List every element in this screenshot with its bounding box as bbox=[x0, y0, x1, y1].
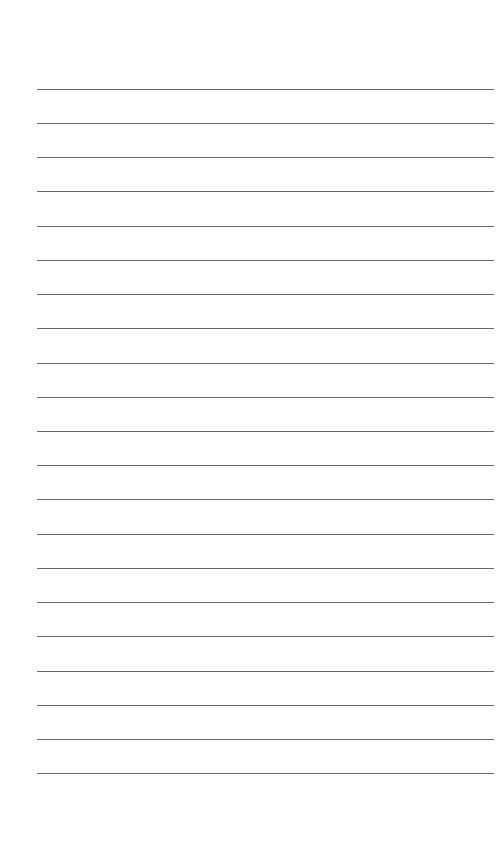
ruled-line bbox=[37, 157, 494, 158]
ruled-line bbox=[37, 89, 494, 90]
ruled-line bbox=[37, 671, 494, 672]
ruled-line bbox=[37, 602, 494, 603]
ruled-line bbox=[37, 773, 494, 774]
ruled-line bbox=[37, 294, 494, 295]
ruled-line bbox=[37, 705, 494, 706]
ruled-line bbox=[37, 260, 494, 261]
ruled-line bbox=[37, 328, 494, 329]
ruled-line bbox=[37, 534, 494, 535]
ruled-line bbox=[37, 191, 494, 192]
ruled-line bbox=[37, 636, 494, 637]
ruled-line bbox=[37, 123, 494, 124]
ruled-line bbox=[37, 431, 494, 432]
ruled-line bbox=[37, 226, 494, 227]
ruled-line bbox=[37, 499, 494, 500]
lined-paper-page bbox=[0, 0, 503, 862]
ruled-line bbox=[37, 465, 494, 466]
ruled-line bbox=[37, 363, 494, 364]
ruled-line bbox=[37, 397, 494, 398]
ruled-line bbox=[37, 739, 494, 740]
ruled-line bbox=[37, 568, 494, 569]
